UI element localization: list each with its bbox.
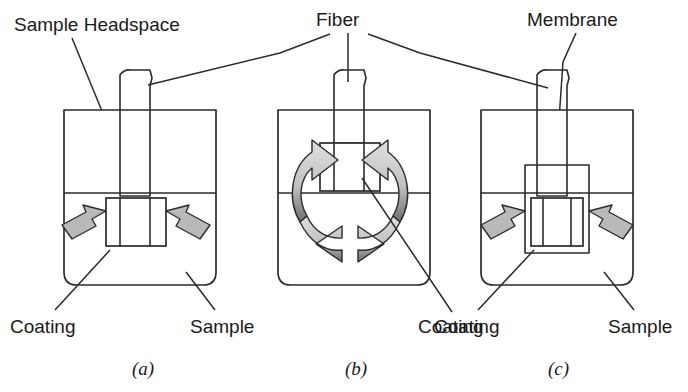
label-coating-a: Coating <box>10 316 76 337</box>
panel-letter-a: (a) <box>132 358 154 380</box>
label-sample-a: Sample <box>190 316 254 337</box>
label-coating-c: Coating <box>434 316 500 337</box>
panel-letter-b: (b) <box>345 358 367 380</box>
coating-a <box>106 198 166 246</box>
label-fiber: Fiber <box>316 9 360 30</box>
label-sample-headspace: Sample Headspace <box>14 14 180 35</box>
spme-diagram-canvas: Sample Headspace Fiber Membrane Coating … <box>0 0 688 392</box>
coating-c <box>531 198 583 246</box>
label-sample-c: Sample <box>608 316 672 337</box>
spme-figure: Sample Headspace Fiber Membrane Coating … <box>0 0 688 392</box>
panel-letter-c: (c) <box>548 358 569 380</box>
label-membrane: Membrane <box>527 9 618 30</box>
